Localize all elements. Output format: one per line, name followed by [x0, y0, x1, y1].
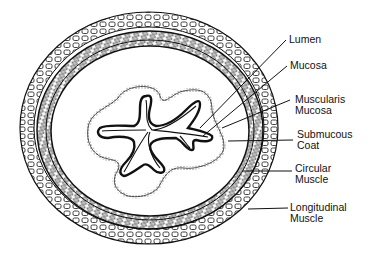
label-circular-muscle-line2: Muscle: [295, 174, 331, 185]
label-lumen: Lumen: [289, 34, 321, 45]
label-mucosa-line1: Mucosa: [290, 60, 327, 71]
label-longitudinal-muscle-line2: Muscle: [290, 213, 347, 224]
label-submucous-coat-line2: Coat: [297, 140, 352, 151]
label-circular-muscle: Circular Muscle: [295, 163, 331, 185]
label-submucous-coat: Submucous Coat: [297, 129, 352, 151]
label-lumen-line1: Lumen: [289, 34, 321, 45]
leader-line-longitudinal-muscle: [248, 208, 288, 209]
label-muscularis-mucosa: Muscularis Mucosa: [295, 94, 345, 116]
label-mucosa: Mucosa: [290, 60, 327, 71]
label-longitudinal-muscle: Longitudinal Muscle: [290, 202, 347, 224]
label-muscularis-mucosa-line2: Mucosa: [295, 105, 345, 116]
